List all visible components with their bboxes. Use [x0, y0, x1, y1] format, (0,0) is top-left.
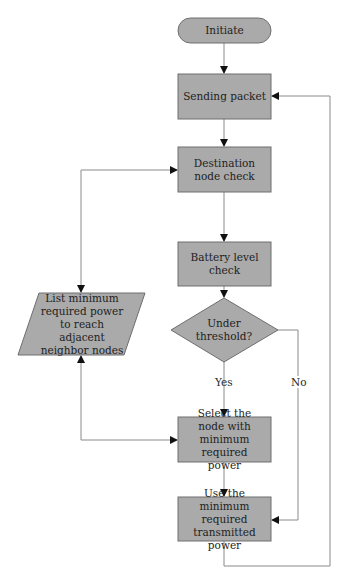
- edge-threshold-to-use-no: [272, 330, 298, 520]
- edge-label-yes: Yes: [215, 376, 233, 388]
- label-battery-check: Battery level check: [190, 242, 259, 286]
- label-initiate: Initiate: [178, 18, 271, 43]
- label-threshold: Under threshold?: [190, 305, 258, 355]
- label-sending-packet: Sending packet: [178, 74, 271, 119]
- label-use-power: Use the minimum required transmitted pow…: [178, 497, 271, 541]
- label-select-node: Select the node with minimum required po…: [184, 417, 265, 462]
- label-destination-check: Destination node check: [182, 147, 267, 192]
- edge-label-no: No: [290, 376, 308, 388]
- label-list-power: List minimum required power to reach adj…: [36, 293, 128, 355]
